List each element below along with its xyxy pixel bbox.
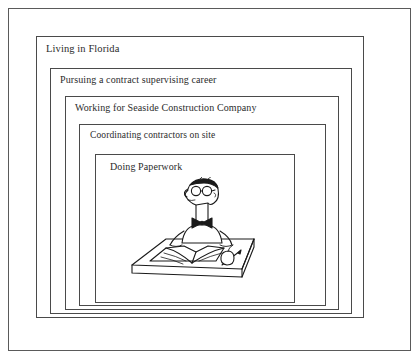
man-doing-paperwork-illustration (104, 177, 288, 299)
diagram-canvas: Living in Florida Pursuing a contract su… (0, 0, 419, 359)
nested-box-level-2: Pursuing a contract supervising career W… (50, 68, 352, 314)
nested-box-level-3: Working for Seaside Construction Company… (65, 96, 339, 310)
man-figure (170, 177, 232, 247)
nested-box-label-level-1: Living in Florida (46, 43, 119, 54)
nested-box-label-level-3: Working for Seaside Construction Company (75, 102, 257, 113)
nested-box-label-level-2: Pursuing a contract supervising career (60, 74, 217, 85)
outer-frame: Living in Florida Pursuing a contract su… (8, 8, 411, 351)
nested-box-label-level-4: Coordinating contractors on site (90, 130, 215, 140)
nested-box-level-5: Doing Paperwork (95, 154, 295, 303)
nested-box-level-1: Living in Florida Pursuing a contract su… (36, 36, 364, 318)
nested-box-label-level-5: Doing Paperwork (110, 161, 182, 172)
nested-box-level-4: Coordinating contractors on site Doing P… (79, 124, 326, 306)
